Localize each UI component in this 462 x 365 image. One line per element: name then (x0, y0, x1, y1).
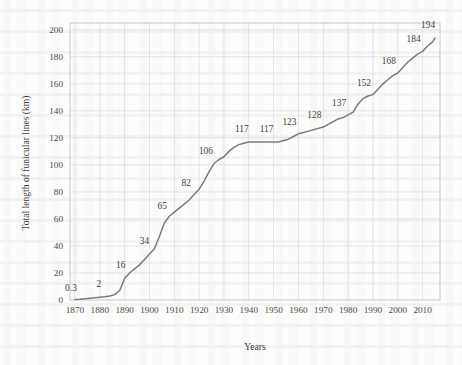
data-point-label: 152 (357, 78, 371, 88)
y-tick-label: 80 (54, 187, 64, 197)
y-tick-label: 40 (54, 241, 64, 251)
series-line (75, 38, 435, 300)
x-tick-label: 1950 (264, 305, 283, 315)
data-point-label: 106 (199, 146, 213, 156)
y-tick-label: 100 (49, 160, 63, 170)
x-tick-label: 1990 (364, 305, 383, 315)
y-axis-title: Total length of funicular lines (km) (20, 96, 32, 231)
x-tick-label: 1910 (165, 305, 184, 315)
data-point-label: 117 (235, 124, 249, 134)
x-tick-label: 1970 (314, 305, 333, 315)
data-point-label: 0.3 (65, 283, 77, 293)
data-point-label: 65 (158, 201, 168, 211)
x-tick-label: 1870 (66, 305, 85, 315)
x-tick-label: 1890 (115, 305, 134, 315)
x-axis-title: Years (244, 341, 266, 352)
x-tick-label: 1920 (190, 305, 209, 315)
x-tick-label: 1880 (91, 305, 110, 315)
y-tick-label: 120 (49, 133, 63, 143)
y-axis-tick-labels: 020406080100120140160180200 (49, 25, 63, 305)
data-point-label: 2 (96, 279, 101, 289)
x-tick-label: 2010 (413, 305, 432, 315)
chart-page: 1870188018901900191019201930194019501960… (0, 0, 462, 365)
x-tick-label: 1980 (339, 305, 358, 315)
y-tick-label: 20 (54, 268, 64, 278)
x-tick-label: 1940 (240, 305, 259, 315)
data-point-label: 184 (407, 34, 421, 44)
x-tick-label: 1930 (215, 305, 234, 315)
data-point-label: 168 (382, 56, 396, 66)
data-point-label: 128 (307, 110, 321, 120)
y-tick-label: 180 (49, 52, 63, 62)
x-tick-label: 1960 (289, 305, 308, 315)
funicular-length-line-chart: 1870188018901900191019201930194019501960… (0, 0, 462, 365)
data-point-label: 117 (260, 124, 274, 134)
y-tick-label: 200 (49, 25, 63, 35)
x-tick-label: 1900 (140, 305, 159, 315)
y-tick-label: 140 (49, 106, 63, 116)
data-point-label: 137 (332, 98, 346, 108)
data-line (75, 38, 435, 300)
data-point-label: 123 (282, 117, 296, 127)
data-point-label: 34 (140, 236, 150, 246)
data-point-label: 16 (116, 260, 126, 270)
data-point-label: 194 (421, 20, 435, 30)
y-tick-label: 60 (54, 214, 64, 224)
y-tick-label: 160 (49, 79, 63, 89)
x-axis-tick-labels: 1870188018901900191019201930194019501960… (66, 305, 432, 315)
x-tick-label: 2000 (389, 305, 408, 315)
data-point-label: 82 (181, 178, 191, 188)
data-point-labels: 0.32163465821061171171231281371521681841… (65, 20, 435, 293)
y-tick-label: 0 (58, 295, 63, 305)
